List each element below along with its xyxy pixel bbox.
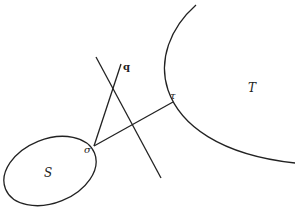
set-S-ellipse	[0, 123, 106, 212]
label-q: q	[123, 61, 130, 72]
set-T-arc	[164, 5, 295, 163]
label-tau: τ	[170, 90, 176, 101]
diagram-canvas: S T σ τ q	[0, 0, 298, 212]
separating-line	[96, 57, 161, 178]
label-T: T	[248, 81, 257, 95]
label-sigma: σ	[84, 144, 92, 155]
label-S: S	[44, 166, 52, 180]
